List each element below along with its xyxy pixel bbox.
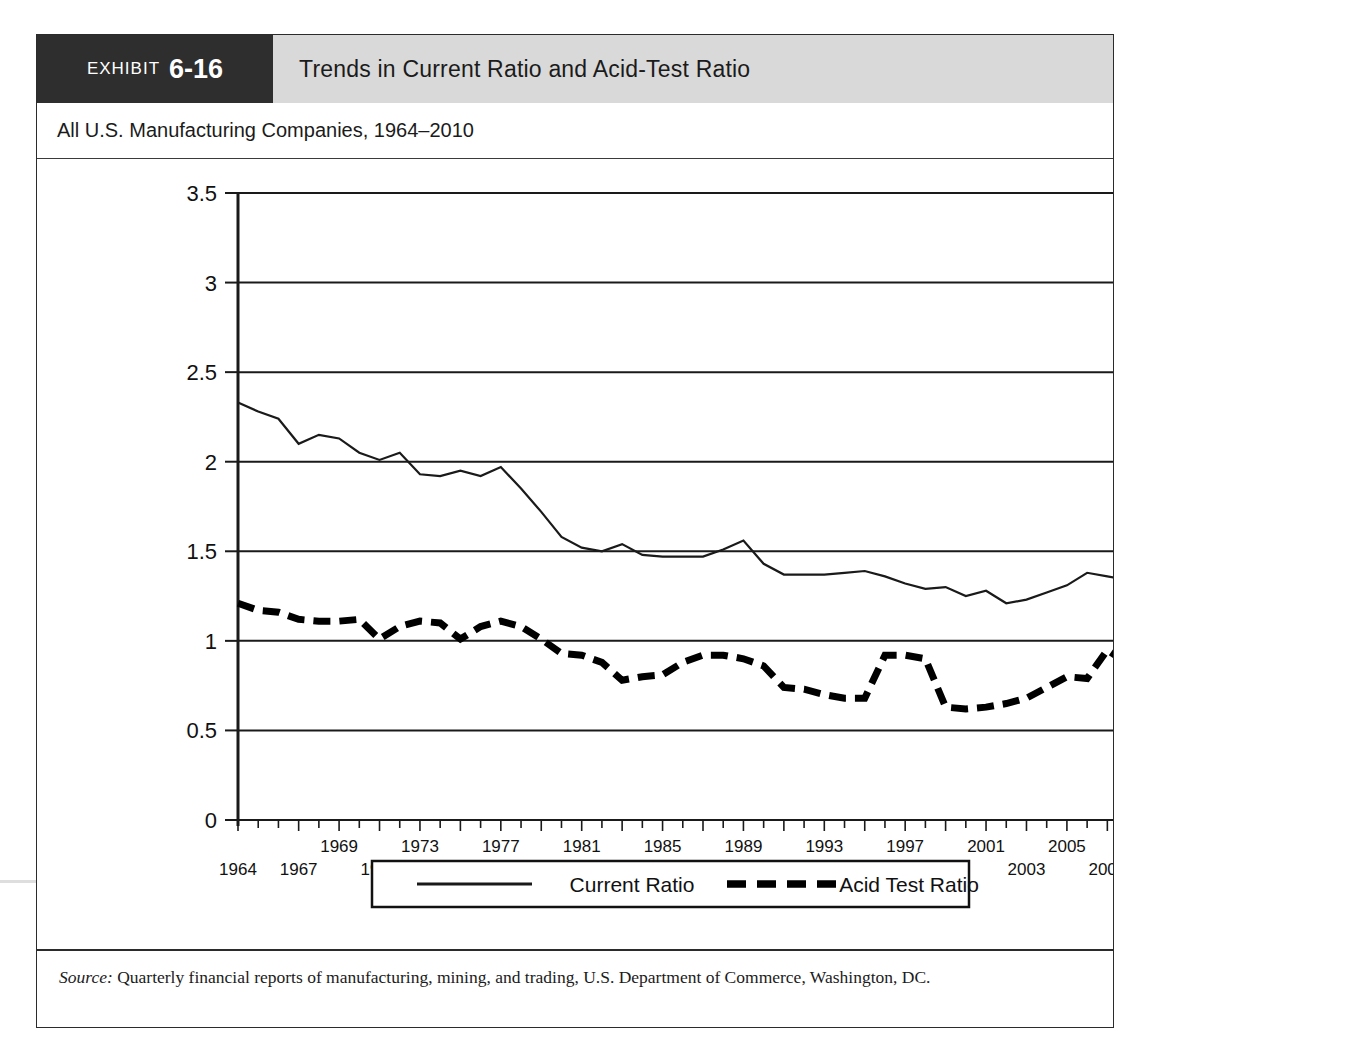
chart-container: 00.511.522.533.5196919731977198119851989… xyxy=(37,159,1113,949)
exhibit-panel: EXHIBIT 6-16 Trends in Current Ratio and… xyxy=(36,34,1114,1028)
x-axis-tick-label: 2001 xyxy=(967,837,1005,856)
exhibit-title: Trends in Current Ratio and Acid-Test Ra… xyxy=(273,35,1113,103)
source-note: Source: Quarterly financial reports of m… xyxy=(37,949,1113,1027)
x-axis-tick-label: 2007 xyxy=(1088,860,1113,879)
x-axis-tick-label: 2005 xyxy=(1048,837,1086,856)
y-axis-tick-label: 0.5 xyxy=(186,718,217,743)
x-axis-tick-label: 2003 xyxy=(1008,860,1046,879)
exhibit-header: EXHIBIT 6-16 Trends in Current Ratio and… xyxy=(37,35,1113,103)
exhibit-subtitle: All U.S. Manufacturing Companies, 1964–2… xyxy=(37,103,1113,159)
x-axis-tick-label: 1969 xyxy=(320,837,358,856)
exhibit-label: EXHIBIT xyxy=(87,59,160,79)
y-axis-tick-label: 3 xyxy=(205,271,217,296)
legend-label-acid-test-ratio: Acid Test Ratio xyxy=(839,873,979,896)
x-axis-tick-label: 1989 xyxy=(725,837,763,856)
y-axis-tick-label: 1.5 xyxy=(186,539,217,564)
y-axis-tick-label: 2.5 xyxy=(186,360,217,385)
x-axis-tick-label: 1981 xyxy=(563,837,601,856)
scan-artifact xyxy=(0,880,40,883)
legend-label-current-ratio: Current Ratio xyxy=(570,873,695,896)
source-label: Source: xyxy=(59,967,113,987)
x-axis-tick-label: 1964 xyxy=(219,860,257,879)
y-axis-tick-label: 3.5 xyxy=(186,181,217,206)
x-axis-tick-label: 1977 xyxy=(482,837,520,856)
y-axis-tick-label: 2 xyxy=(205,450,217,475)
exhibit-tag: EXHIBIT 6-16 xyxy=(37,35,273,103)
x-axis-tick-label: 1993 xyxy=(805,837,843,856)
series-line-acid-test-ratio xyxy=(238,603,1113,709)
page-canvas: EXHIBIT 6-16 Trends in Current Ratio and… xyxy=(0,0,1365,1044)
source-body: Quarterly financial reports of manufactu… xyxy=(113,967,931,987)
x-axis-tick-label: 1973 xyxy=(401,837,439,856)
series-line-current-ratio xyxy=(238,403,1113,604)
x-axis-tick-label: 1985 xyxy=(644,837,682,856)
exhibit-number: 6-16 xyxy=(169,54,223,85)
y-axis-tick-label: 0 xyxy=(205,808,217,833)
line-chart: 00.511.522.533.5196919731977198119851989… xyxy=(37,159,1113,949)
x-axis-tick-label: 1997 xyxy=(886,837,924,856)
x-axis-tick-label: 1967 xyxy=(280,860,318,879)
y-axis-tick-label: 1 xyxy=(205,629,217,654)
